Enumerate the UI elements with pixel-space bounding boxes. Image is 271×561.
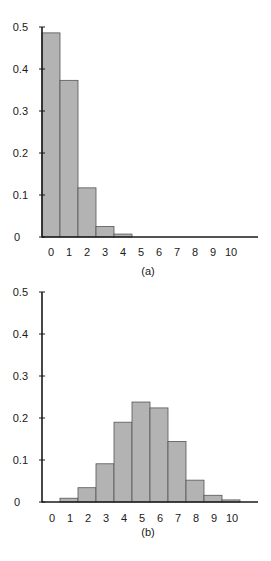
x-tick-label: 9: [205, 512, 223, 524]
y-tick-label: 0.3: [2, 370, 28, 382]
chart-b-caption: (b): [128, 526, 168, 538]
x-tick-label: 4: [115, 512, 133, 524]
x-tick-label: 5: [133, 512, 151, 524]
x-tick-label: 8: [187, 512, 205, 524]
y-tick-label: 0.1: [2, 454, 28, 466]
x-tick-label: 2: [79, 512, 97, 524]
bar: [186, 480, 204, 502]
y-tick-label: 0.4: [2, 328, 28, 340]
x-tick-label: 6: [151, 512, 169, 524]
x-tick-label: 7: [169, 512, 187, 524]
bar: [150, 408, 168, 502]
bar: [204, 495, 222, 502]
bar: [114, 422, 132, 502]
chart-b-plot: [0, 0, 271, 561]
x-tick-label: 3: [97, 512, 115, 524]
bar: [168, 442, 186, 502]
x-tick-label: 10: [223, 512, 241, 524]
y-tick-label: 0.2: [2, 412, 28, 424]
chart-b: 0.5 0.4 0.3 0.2 0.1 0 0 1 2 3 4 5 6 7 8 …: [0, 0, 271, 561]
x-tick-label: 1: [61, 512, 79, 524]
y-tick-label: 0.5: [2, 286, 28, 298]
bar: [132, 402, 150, 502]
bar: [96, 464, 114, 502]
bar: [78, 488, 96, 502]
x-tick-label: 0: [43, 512, 61, 524]
y-tick-label: 0: [0, 496, 20, 508]
